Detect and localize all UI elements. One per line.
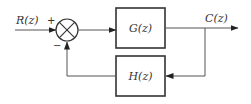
output-label: C(z) <box>205 12 228 25</box>
block-diagram: R(z) + − G(z) C(z) H(z) <box>0 0 251 104</box>
feedback-return-arrow <box>67 42 116 76</box>
plus-sign: + <box>47 15 55 26</box>
feedback-block-label: H(z) <box>128 70 153 83</box>
input-label: R(z) <box>15 14 39 27</box>
forward-block-g: G(z) <box>116 8 165 48</box>
summing-junction <box>56 19 78 41</box>
feedback-block-h: H(z) <box>116 56 165 96</box>
feedback-branch-arrow <box>166 28 205 76</box>
minus-sign: − <box>53 40 61 51</box>
forward-block-label: G(z) <box>129 22 152 35</box>
